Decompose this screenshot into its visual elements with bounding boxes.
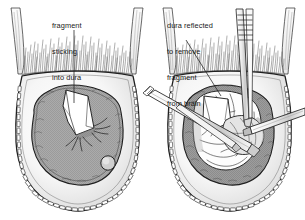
caption-left-panel: fragment sticking into dura: [52, 5, 82, 100]
caption-right-line-2: to remove: [167, 48, 213, 57]
nodule-highlight-left: [103, 158, 110, 165]
caption-right-line-4: from brain: [167, 100, 213, 109]
surgical-illustration-figure: fragment sticking into dura dura reflect…: [0, 0, 305, 220]
caption-right-line-3: fragment: [167, 74, 213, 83]
caption-right-line-1: dura reflected: [167, 22, 213, 31]
caption-left-line-3: into dura: [52, 74, 82, 83]
caption-left-line-2: sticking: [52, 48, 82, 57]
caption-right-panel: dura reflected to remove fragment from b…: [167, 5, 213, 125]
illustration-canvas: [0, 0, 305, 220]
caption-left-line-1: fragment: [52, 22, 82, 31]
